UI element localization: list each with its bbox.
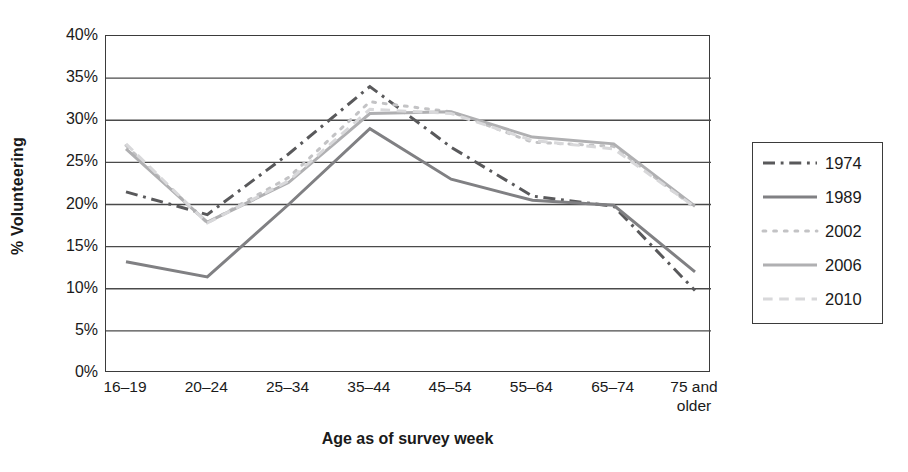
x-axis-tick-label: 35–44 [324, 377, 414, 396]
legend-swatch-2006 [761, 258, 819, 272]
y-axis-tick-label: 5% [40, 322, 98, 338]
y-axis-tick-label: 30% [40, 111, 98, 127]
y-axis-tick-label: 25% [40, 153, 98, 169]
legend-item-1989[interactable]: 1989 [761, 186, 879, 208]
series-line-1989 [126, 129, 695, 277]
legend-item-1974[interactable]: 1974 [761, 152, 879, 174]
legend-label: 1989 [825, 189, 862, 206]
data-lines [106, 36, 711, 373]
x-axis-title: Age as of survey week [105, 430, 710, 448]
x-axis-tick-label: 25–34 [243, 377, 333, 396]
y-axis-tick-label: 20% [40, 196, 98, 212]
x-axis-tick-label: 45–54 [405, 377, 495, 396]
y-axis-tick-label: 40% [40, 27, 98, 43]
x-axis-tick-label: 65–74 [568, 377, 658, 396]
x-axis-tick-label: 55–64 [486, 377, 576, 396]
y-axis-tick-labels: 0%5%10%15%20%25%30%35%40% [36, 0, 98, 472]
plot-area [105, 35, 710, 372]
legend-label: 2002 [825, 223, 862, 240]
y-axis-title: % Volunteering [2, 0, 34, 392]
x-axis-tick-label: 75 and older [649, 377, 739, 415]
legend-item-2010[interactable]: 2010 [761, 288, 879, 310]
legend-label: 2006 [825, 257, 862, 274]
y-axis-tick-label: 10% [40, 280, 98, 296]
legend-swatch-1989 [761, 190, 819, 204]
legend-label: 2010 [825, 291, 862, 308]
legend-label: 1974 [825, 155, 862, 172]
legend-item-2006[interactable]: 2006 [761, 254, 879, 276]
legend: 19741989200220062010 [752, 142, 883, 324]
legend-swatch-2010 [761, 292, 819, 306]
series-line-1974 [126, 87, 695, 291]
legend-item-2002[interactable]: 2002 [761, 220, 879, 242]
x-axis-tick-labels: 16–1920–2425–3435–4445–5455–6465–7475 an… [105, 377, 710, 423]
x-axis-tick-label: 16–19 [80, 377, 170, 396]
line-chart: % Volunteering 0%5%10%15%20%25%30%35%40%… [0, 0, 908, 472]
x-axis-tick-label: 20–24 [161, 377, 251, 396]
y-axis-tick-label: 15% [40, 238, 98, 254]
y-axis-tick-label: 35% [40, 69, 98, 85]
legend-swatch-1974 [761, 156, 819, 170]
legend-swatch-2002 [761, 224, 819, 238]
